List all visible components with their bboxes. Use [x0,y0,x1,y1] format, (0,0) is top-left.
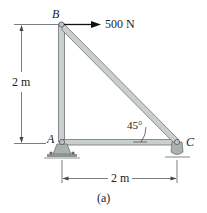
force-arrow [64,21,101,28]
height-dimension-label: 2 m [12,76,30,88]
width-dimension-label: 2 m [111,172,129,184]
member-bc [62,22,179,144]
label-c: C [186,136,194,148]
angle-label: 45° [127,120,142,131]
label-a: A [47,133,54,145]
member-ac [62,140,177,146]
member-ab [59,24,65,142]
caption: (a) [97,192,110,204]
truss-diagram [0,0,207,213]
pin-b [59,22,64,27]
force-label: 500 N [105,18,135,30]
label-b: B [52,8,59,20]
